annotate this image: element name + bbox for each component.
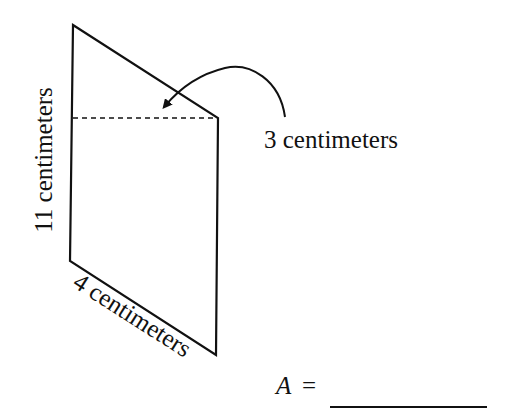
trapezoid-diagram: 3 centimeters 11 centimeters 4 centimete… xyxy=(0,0,506,410)
diagram-canvas: 3 centimeters 11 centimeters 4 centimete… xyxy=(0,0,506,410)
area-variable: A xyxy=(274,372,292,399)
curved-arrow-icon xyxy=(165,67,285,117)
equals-sign: = xyxy=(302,372,316,399)
label-11-centimeters: 11 centimeters xyxy=(30,87,57,233)
label-4-centimeters: 4 centimeters xyxy=(69,267,197,362)
label-3-centimeters: 3 centimeters xyxy=(264,126,398,153)
